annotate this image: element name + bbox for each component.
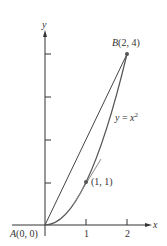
diagram-canvas [0,0,167,246]
y-axis-label: y [42,20,46,30]
point-b [125,52,129,56]
x-axis-arrow-icon [145,223,152,227]
tangent-point [84,180,88,184]
tick-label-1: 1 [84,229,89,239]
x-axis-label: x [153,220,157,230]
point-b-label: B(2, 4) [112,38,140,48]
secant-line [45,54,127,225]
point-a-label: A(0, 0) [10,229,38,239]
curve-label: y = x2 [115,112,138,123]
tick-label-2: 2 [125,229,130,239]
tangent-point-label: (1, 1) [91,177,113,187]
y-axis-arrow-icon [43,30,47,37]
